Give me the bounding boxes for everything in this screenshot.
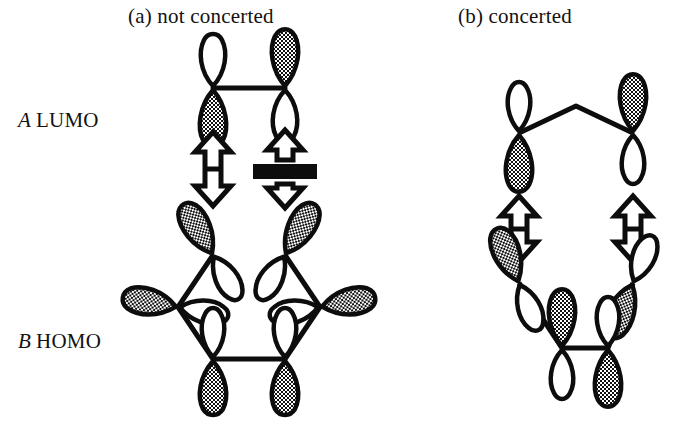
panel-b-group	[485, 74, 665, 407]
lobe-white	[201, 34, 225, 86]
panel-b-interaction-right-arrow	[615, 196, 651, 262]
panel-b-homo-bond-chain	[519, 283, 633, 348]
panel-a-lumo-group	[200, 29, 298, 147]
lobe-white	[551, 350, 574, 399]
panel-b-homo-orbital-2	[549, 289, 575, 399]
lobe-white	[250, 251, 294, 305]
lobe-shaded	[200, 90, 226, 147]
lobe-white	[202, 308, 225, 357]
up-arrow	[267, 130, 303, 160]
panel-a-interaction-left-arrow	[195, 132, 231, 206]
double-headed-arrow-outline	[501, 196, 537, 262]
panel-b-lumo-orbital-right	[620, 74, 646, 184]
lobe-white	[273, 90, 297, 142]
lobe-shaded	[595, 350, 621, 407]
panel-b-lumo-group	[506, 74, 646, 192]
lobe-shaded	[599, 280, 645, 342]
panel-a-interaction-right-blocked	[253, 130, 317, 208]
row-label-lumo-text: LUMO	[36, 108, 99, 132]
lobe-white	[274, 308, 297, 357]
panel-a-homo-orbital-5	[200, 308, 226, 415]
lobe-white	[204, 251, 248, 305]
double-headed-arrow-outline	[195, 132, 231, 206]
panel-a-homo-ring-bonds	[178, 255, 320, 359]
row-label-lumo-symbol: A	[18, 108, 36, 132]
panel-b-interaction-left-arrow	[501, 196, 537, 262]
panel-a-homo-orbital-3	[121, 284, 231, 329]
panel-a-homo-orbital-2	[248, 198, 326, 306]
panel-b-title: (b) concerted	[458, 4, 572, 29]
lobe-shaded	[272, 361, 298, 415]
row-label-homo-text: HOMO	[36, 329, 101, 353]
orbital-diagram-canvas	[0, 0, 676, 424]
lobe-shaded	[200, 361, 226, 415]
lobe-white	[508, 82, 531, 131]
lobe-white	[597, 297, 620, 346]
lobe-shaded	[620, 74, 646, 131]
panel-a-homo-orbital-6	[272, 308, 298, 415]
lobe-white	[178, 296, 230, 327]
lobe-shaded	[172, 198, 223, 260]
lobe-shaded	[320, 284, 378, 319]
panel-b-homo-orbital-1	[485, 224, 551, 336]
lobe-shaded	[549, 289, 575, 346]
row-label-lumo: ALUMO	[18, 108, 99, 133]
panel-b-homo-orbital-3	[595, 297, 621, 407]
lobe-shaded	[506, 135, 532, 192]
lobe-shaded	[272, 29, 298, 86]
figure-root: (a) not concerted (b) concerted ALUMO BH…	[0, 0, 676, 424]
lobe-white	[623, 231, 662, 285]
lobe-shaded	[121, 284, 179, 319]
row-label-homo-symbol: B	[18, 329, 36, 353]
panel-b-homo-group	[485, 224, 665, 407]
panel-a-lumo-orbital-left	[200, 34, 226, 147]
lobe-white	[509, 281, 548, 335]
down-arrow	[267, 184, 303, 208]
panel-a-homo-orbital-4	[267, 284, 377, 329]
blocking-bar	[253, 164, 317, 179]
lobe-white	[268, 296, 320, 327]
lobe-shaded	[485, 224, 531, 286]
panel-a-group	[121, 29, 378, 415]
row-label-homo: BHOMO	[18, 329, 101, 354]
panel-a-homo-orbital-1	[172, 198, 250, 306]
panel-a-title: (a) not concerted	[128, 4, 274, 29]
lobe-shaded	[275, 198, 326, 260]
panel-b-lumo-orbital-left	[506, 82, 532, 192]
lobe-white	[622, 135, 645, 184]
panel-b-homo-orbital-4	[599, 231, 665, 343]
panel-a-homo-group	[121, 198, 378, 415]
panel-a-lumo-orbital-right	[272, 29, 298, 142]
double-headed-arrow-outline	[615, 196, 651, 262]
panel-b-lumo-bond-line	[519, 106, 633, 133]
